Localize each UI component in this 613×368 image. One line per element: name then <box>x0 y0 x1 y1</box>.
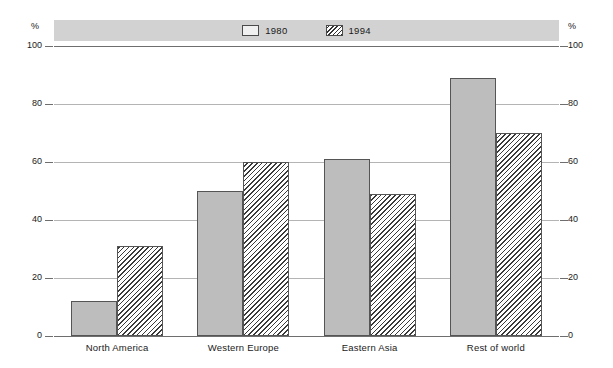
x-axis-label-north-america: North America <box>47 342 187 353</box>
y-tick-left-20 <box>45 278 53 279</box>
bar-1980-north-america <box>71 301 117 336</box>
y-tick-left-60 <box>45 162 53 163</box>
y-tick-left-40 <box>45 220 53 221</box>
bar-1980-rest-of-world <box>450 78 496 336</box>
y-axis-label-right-0: 0 <box>568 330 598 340</box>
y-axis-label-left-20: 20 <box>12 272 42 282</box>
y-tick-right-60 <box>560 162 568 163</box>
bar-1994-western-europe <box>243 162 289 336</box>
y-axis-label-left-100: 100 <box>12 40 42 50</box>
legend-item-1980: 1980 <box>242 25 287 36</box>
legend: 1980 1994 <box>54 20 559 41</box>
y-axis-label-left-60: 60 <box>12 156 42 166</box>
bar-1994-rest-of-world <box>496 133 542 336</box>
bar-group-eastern-asia <box>324 46 416 336</box>
y-tick-right-20 <box>560 278 568 279</box>
y-axis-label-left-40: 40 <box>12 214 42 224</box>
y-tick-right-100 <box>560 46 568 47</box>
y-tick-right-0 <box>560 336 568 337</box>
y-tick-right-80 <box>560 104 568 105</box>
y-axis-label-right-100: 100 <box>568 40 598 50</box>
y-axis-label-left-0: 0 <box>12 330 42 340</box>
legend-swatch-1994 <box>326 25 343 36</box>
x-axis-label-eastern-asia: Eastern Asia <box>300 342 440 353</box>
bar-group-north-america <box>71 46 163 336</box>
y-axis-label-right-20: 20 <box>568 272 598 282</box>
y-axis-label-right-80: 80 <box>568 98 598 108</box>
y-tick-left-100 <box>45 46 53 47</box>
y-axis-label-left-80: 80 <box>12 98 42 108</box>
bar-1994-eastern-asia <box>370 194 416 336</box>
x-axis-label-western-europe: Western Europe <box>173 342 313 353</box>
plot-area: 002020404060608080100100North AmericaWes… <box>54 46 559 336</box>
y-axis-unit-right: % <box>568 21 576 31</box>
legend-item-1994: 1994 <box>326 25 371 36</box>
legend-label-1980: 1980 <box>265 25 287 36</box>
bar-group-western-europe <box>197 46 289 336</box>
bar-1980-western-europe <box>197 191 243 336</box>
bar-1994-north-america <box>117 246 163 336</box>
y-axis-label-right-60: 60 <box>568 156 598 166</box>
legend-swatch-1980 <box>242 25 259 36</box>
y-tick-left-80 <box>45 104 53 105</box>
legend-label-1994: 1994 <box>349 25 371 36</box>
y-tick-right-40 <box>560 220 568 221</box>
bar-chart-figure: % % 1980 1994 002020404060608080100100No… <box>0 0 613 368</box>
y-axis-label-right-40: 40 <box>568 214 598 224</box>
bar-group-rest-of-world <box>450 46 542 336</box>
gridline-0 <box>54 336 559 337</box>
x-axis-label-rest-of-world: Rest of world <box>426 342 566 353</box>
bar-1980-eastern-asia <box>324 159 370 336</box>
y-tick-left-0 <box>45 336 53 337</box>
y-axis-unit-left: % <box>31 21 39 31</box>
